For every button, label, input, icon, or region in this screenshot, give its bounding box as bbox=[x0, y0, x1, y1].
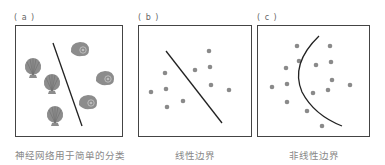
panel-c-dots bbox=[270, 44, 353, 129]
panel-c-boundary-curve bbox=[298, 36, 342, 126]
panel-a-nautilus-shells bbox=[71, 42, 114, 109]
diagram-graphics bbox=[0, 0, 385, 165]
panel-b-boundary-line bbox=[166, 51, 222, 123]
panel-a-scallop-shells bbox=[25, 58, 63, 126]
panel-b-dots bbox=[149, 49, 232, 110]
